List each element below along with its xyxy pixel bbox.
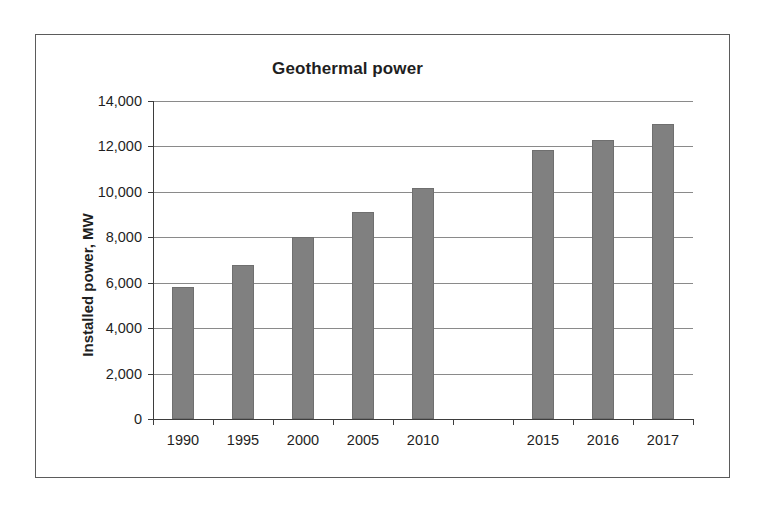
- y-axis-tick: [148, 328, 154, 329]
- bar: [292, 237, 314, 419]
- bar: [412, 188, 434, 419]
- y-axis-tick-label: 6,000: [106, 275, 142, 291]
- y-axis-tick: [148, 101, 154, 102]
- chart-frame: Geothermal power Installed power, MW 02,…: [35, 34, 730, 478]
- y-axis-title: Installed power, MW: [78, 150, 96, 420]
- x-axis-tick-label: 2015: [527, 432, 559, 448]
- x-axis-tick-label: 1995: [227, 432, 259, 448]
- gridline: [153, 101, 693, 102]
- y-axis-tick-label: 2,000: [106, 366, 142, 382]
- bar: [592, 140, 614, 419]
- plot-area: 02,0004,0006,0008,00010,00012,00014,000 …: [153, 101, 693, 419]
- x-axis-tick-label: 2005: [347, 432, 379, 448]
- bar: [172, 287, 194, 419]
- x-axis-tick: [273, 419, 274, 425]
- y-axis-tick: [148, 283, 154, 284]
- bar: [532, 150, 554, 419]
- chart-title-text: Geothermal power: [272, 59, 423, 79]
- y-axis-tick-label: 8,000: [106, 229, 142, 245]
- x-axis-tick-label: 2000: [287, 432, 319, 448]
- y-axis-tick: [148, 146, 154, 147]
- x-axis-tick: [333, 419, 334, 425]
- x-axis-tick-label: 2010: [407, 432, 439, 448]
- y-axis-tick-label: 0: [134, 411, 142, 427]
- y-axis-tick-label: 14,000: [98, 93, 142, 109]
- y-axis-tick: [148, 237, 154, 238]
- y-axis-tick-label: 12,000: [98, 138, 142, 154]
- x-axis-tick: [633, 419, 634, 425]
- x-axis-tick: [573, 419, 574, 425]
- figure-canvas: Geothermal power Installed power, MW 02,…: [0, 0, 764, 506]
- x-axis-tick-label: 2016: [587, 432, 619, 448]
- x-axis-tick: [693, 419, 694, 425]
- chart-title: Geothermal power: [36, 59, 731, 79]
- x-axis-tick: [153, 419, 154, 425]
- y-axis-tick: [148, 374, 154, 375]
- bar: [232, 265, 254, 419]
- x-axis-tick: [513, 419, 514, 425]
- y-axis-line: [153, 101, 154, 419]
- x-axis-tick: [213, 419, 214, 425]
- y-axis-tick-label: 4,000: [106, 320, 142, 336]
- x-axis-tick: [453, 419, 454, 425]
- bar: [352, 212, 374, 419]
- bar: [652, 124, 674, 419]
- x-axis-tick-label: 2017: [647, 432, 679, 448]
- y-axis-tick: [148, 192, 154, 193]
- x-axis-tick-label: 1990: [167, 432, 199, 448]
- y-axis-title-text: Installed power, MW: [79, 213, 96, 356]
- y-axis-tick-label: 10,000: [98, 184, 142, 200]
- gridline: [153, 419, 693, 420]
- x-axis-tick: [393, 419, 394, 425]
